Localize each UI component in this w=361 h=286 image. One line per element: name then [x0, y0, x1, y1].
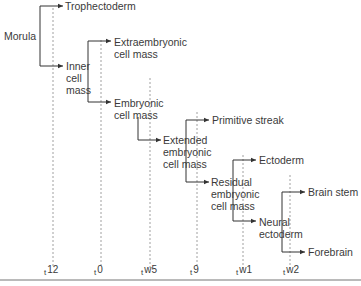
node-brain-stem: Brain stem — [308, 186, 358, 198]
timepoint-tw5: tw5 — [141, 264, 157, 277]
node-extended-embryonic-cell-mass: Extended embryonic cell mass — [163, 134, 211, 170]
node-morula: Morula — [4, 30, 36, 42]
timepoint-t12: t12 — [44, 264, 58, 277]
timepoint-tw2: tw2 — [283, 264, 299, 277]
node-inner-cell-mass: Inner cell mass — [66, 60, 91, 96]
timepoint-t0: t0 — [94, 264, 103, 277]
node-ectoderm: Ectoderm — [259, 154, 304, 166]
node-residual-embryonic-cell-mass: Residual embryonic cell mass — [211, 176, 259, 212]
node-trophectoderm: Trophectoderm — [65, 0, 136, 12]
node-primitive-streak: Primitive streak — [212, 114, 284, 126]
node-embryonic-cell-mass: Embryonic cell mass — [114, 97, 164, 121]
timepoint-t9: t9 — [190, 264, 199, 277]
timepoint-tw1: tw1 — [236, 264, 252, 277]
node-neural-ectoderm: Neural ectoderm — [259, 216, 303, 240]
node-extraembryonic-cell-mass: Extraembryonic cell mass — [114, 36, 187, 60]
node-forebrain: Forebrain — [308, 246, 353, 258]
